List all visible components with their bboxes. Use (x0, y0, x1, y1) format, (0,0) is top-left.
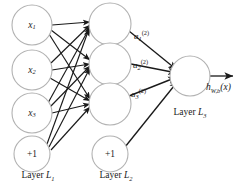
output-function-label: hW,b(x) (206, 82, 231, 94)
layer-L2-nodes: +1 (89, 3, 131, 172)
node-bias-layer1-label: +1 (27, 149, 37, 159)
edge-x3-h2 (50, 66, 90, 107)
edges-layer1-to-layer2 (47, 22, 90, 150)
activation-label-a3: a3(2) (131, 87, 146, 100)
node-hidden-1[interactable] (89, 3, 131, 45)
node-output[interactable] (170, 56, 210, 96)
neural-network-diagram: x1 x2 x3 +1 +1 (0, 0, 245, 188)
layer-caption-L3: Layer L3 (173, 107, 206, 119)
edge-x2-h1 (51, 25, 90, 63)
edge-x1-h2 (51, 30, 90, 60)
layer-caption-L1: Layer L1 (21, 170, 54, 182)
layer-L3-nodes (170, 56, 210, 96)
edge-x1-h1 (52, 22, 90, 25)
network-svg: x1 x2 x3 +1 +1 (0, 0, 245, 188)
edge-bias1-h2 (49, 68, 90, 147)
layer-L1-nodes: x1 x2 x3 +1 (12, 5, 52, 172)
node-hidden-2[interactable] (89, 43, 131, 85)
layer-caption-L2: Layer L2 (99, 170, 133, 182)
node-hidden-3[interactable] (89, 83, 131, 125)
activation-label-a1: a1(2) (134, 29, 149, 42)
activation-label-a2: a2(2) (133, 58, 148, 71)
edge-bias1-h3 (51, 107, 90, 150)
node-bias-layer2-label: +1 (105, 149, 115, 159)
